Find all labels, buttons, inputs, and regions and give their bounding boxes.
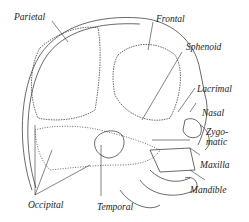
- label-maxilla: Maxilla: [200, 160, 230, 170]
- label-mandible: Mandible: [190, 185, 226, 195]
- label-occipital: Occipital: [28, 200, 63, 210]
- label-nasal: Nasal: [202, 108, 224, 118]
- skull-diagram: Parietal Frontal Sphenoid Lacrimal Nasal…: [0, 0, 249, 222]
- label-zygomatic-line1: Zygo-: [206, 127, 228, 137]
- label-sphenoid: Sphenoid: [186, 42, 221, 52]
- label-lacrimal: Lacrimal: [197, 84, 232, 94]
- label-zygomatic-line2: matic: [206, 137, 227, 147]
- label-frontal: Frontal: [156, 14, 185, 24]
- label-parietal: Parietal: [14, 12, 45, 22]
- label-temporal: Temporal: [97, 202, 133, 212]
